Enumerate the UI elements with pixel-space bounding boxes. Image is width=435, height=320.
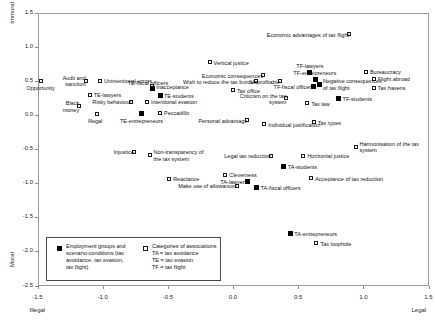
data-point-label: Criticism on the tax system — [228, 93, 286, 105]
data-point — [364, 70, 368, 74]
y-tick-mark — [35, 81, 38, 82]
data-point-label: TA-fiscal officers — [260, 185, 313, 191]
data-point-label: Risky behaviour — [87, 99, 132, 105]
data-point — [317, 82, 322, 87]
data-point — [354, 145, 358, 149]
data-point — [158, 111, 162, 115]
data-point-label: Injustice — [105, 149, 133, 155]
data-point — [281, 164, 286, 169]
y-tick-mark — [35, 13, 38, 14]
data-point-label: Vertical justice — [214, 60, 262, 66]
x-tick-label: 1.0 — [351, 294, 375, 300]
x-tick-mark — [168, 286, 169, 289]
x-tick-label: 0.5 — [286, 294, 310, 300]
y-tick-label: -1.5 — [14, 213, 33, 219]
data-point-label: Opportunity — [26, 85, 60, 91]
data-point-label: Peccadillo — [164, 110, 195, 116]
data-point-label: Acceptance of tax reduction — [315, 176, 392, 182]
data-point — [95, 112, 99, 116]
x-axis-right-label: Legal — [412, 307, 427, 313]
legend-entry-text: Employment groups and scenario-condition… — [66, 243, 146, 271]
data-point-label: TF-entrepreneurs — [293, 70, 341, 76]
y-tick-mark — [35, 47, 38, 48]
data-point-label: Non-transparency of the tax system — [154, 149, 210, 161]
data-point — [208, 60, 212, 64]
data-point-label: Black money — [62, 100, 80, 112]
y-tick-label: -1.0 — [14, 179, 33, 185]
data-point — [158, 93, 163, 98]
data-point — [145, 100, 149, 104]
data-point-label: Economic advantages of tax flight — [255, 32, 349, 38]
data-point — [148, 153, 152, 157]
data-point — [336, 96, 341, 101]
data-point — [301, 154, 305, 158]
data-point-label: Reactance — [173, 176, 201, 182]
data-point — [254, 185, 259, 190]
y-tick-mark — [35, 115, 38, 116]
y-tick-mark — [35, 183, 38, 184]
data-point — [309, 176, 313, 180]
y-axis-bottom-label: Moral — [9, 252, 15, 267]
x-tick-mark — [233, 286, 234, 289]
data-point-label: Illegal — [88, 118, 111, 124]
x-tick-mark — [38, 286, 39, 289]
data-point-label: Horizontal justice — [307, 153, 360, 159]
data-point-label: TA-students — [288, 164, 322, 170]
data-point — [305, 101, 309, 105]
data-point — [312, 120, 316, 124]
data-point — [262, 122, 266, 126]
data-point-label: Cleverness — [229, 172, 260, 178]
data-point — [288, 231, 293, 236]
y-tick-label: 1.5 — [14, 9, 33, 15]
data-point — [98, 79, 102, 83]
x-tick-mark — [363, 286, 364, 289]
data-point-label: TE-lawyers — [94, 92, 125, 98]
y-tick-label: 1.0 — [14, 43, 33, 49]
data-point — [231, 88, 235, 92]
data-point-label: Harmonisation of the tax system — [360, 141, 429, 153]
data-point-label: Personal advantage — [194, 118, 247, 124]
data-point-label: TF-fiscal officers — [261, 84, 314, 90]
y-tick-mark — [35, 251, 38, 252]
data-point-label: Tax law — [311, 101, 334, 107]
x-tick-mark — [103, 286, 104, 289]
y-tick-mark — [35, 217, 38, 218]
data-point — [167, 177, 171, 181]
data-point-label: TA-lawyers — [216, 179, 247, 185]
data-point-label: Audit and sanction — [57, 75, 85, 87]
x-tick-label: -1.5 — [26, 294, 50, 300]
data-point — [150, 86, 155, 91]
y-tick-label: -2.5 — [14, 282, 33, 288]
data-point-label: TF-students — [343, 96, 377, 102]
legend-marker-employment-groups — [57, 246, 62, 251]
scatter-plot-figure: Immoral Moral Illegal Legal 1.51.00.50.0… — [0, 0, 435, 320]
data-point — [314, 241, 318, 245]
data-point-label: TA-entrepreneurs — [294, 231, 342, 237]
x-tick-label: 1.5 — [417, 294, 435, 300]
data-point — [139, 111, 144, 116]
x-tick-label: -1.0 — [91, 294, 115, 300]
data-point-label: Legal tax reduction — [215, 153, 271, 159]
y-tick-label: -0.5 — [14, 145, 33, 151]
y-tick-label: 0.5 — [14, 77, 33, 83]
data-point-label: TE-students — [164, 93, 198, 99]
data-point-label: Tax loophole — [320, 241, 357, 247]
legend-marker-associations — [143, 246, 148, 251]
data-point — [88, 93, 92, 97]
x-axis-left-label: Illegal — [30, 307, 46, 313]
x-tick-label: -0.5 — [156, 294, 180, 300]
y-tick-label: 0.0 — [14, 111, 33, 117]
legend-entry-text: Categories of associations TA = tax avoi… — [152, 243, 230, 271]
data-point-label: Tax types — [318, 120, 346, 126]
x-tick-mark — [429, 286, 430, 289]
x-tick-mark — [298, 286, 299, 289]
chart-legend: Employment groups and scenario-condition… — [46, 237, 221, 281]
y-tick-mark — [35, 149, 38, 150]
data-point-label: Negative consequences of tax flight — [323, 78, 384, 90]
data-point-label: Bureaucracy — [370, 69, 404, 75]
data-point — [223, 173, 227, 177]
data-point-label: TE-fiscal officers — [128, 80, 181, 86]
data-point — [39, 79, 43, 83]
x-tick-label: 0.0 — [221, 294, 245, 300]
data-point-label: TF-lawyers — [296, 63, 327, 69]
